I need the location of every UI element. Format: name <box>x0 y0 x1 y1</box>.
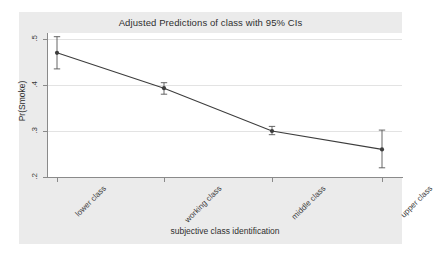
y-tick-mark-1 <box>43 85 47 86</box>
x-tick-mark-3 <box>382 178 383 182</box>
gridline-0p3 <box>47 131 402 132</box>
x-tick-mark-0 <box>57 178 58 182</box>
y-tick-label-2: .3 <box>30 124 39 138</box>
x-tick-label-upper-class: upper class <box>399 184 434 219</box>
plot-area <box>47 33 402 177</box>
x-tick-mark-1 <box>164 178 165 182</box>
y-tick-label-3: .2 <box>30 170 39 184</box>
y-axis-title: Pr(Smoke) <box>17 71 27 131</box>
y-tick-mark-0 <box>43 39 47 40</box>
x-axis-title: subjective class identification <box>47 226 403 236</box>
y-tick-mark-3 <box>43 177 47 178</box>
x-tick-mark-2 <box>272 178 273 182</box>
x-axis-line <box>47 177 403 178</box>
y-axis-line <box>47 33 48 178</box>
y-tick-mark-2 <box>43 131 47 132</box>
y-tick-label-0: .5 <box>30 32 39 46</box>
chart-title: Adjusted Predictions of class with 95% C… <box>19 17 402 28</box>
y-tick-label-1: .4 <box>30 78 39 92</box>
gridline-0p5 <box>47 39 402 40</box>
gridline-0p4 <box>47 85 402 86</box>
